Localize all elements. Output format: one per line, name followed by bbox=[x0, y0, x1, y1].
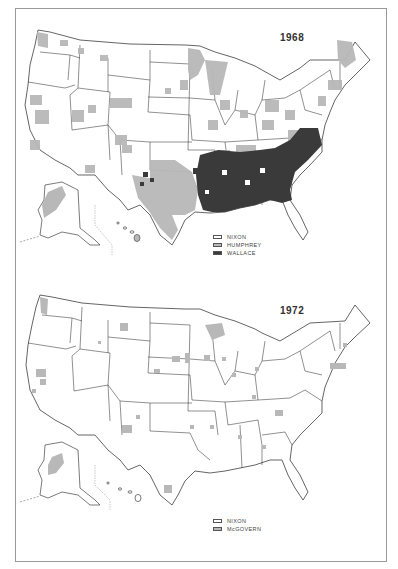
legend-label: HUMPHREY bbox=[227, 242, 262, 248]
year-label-1972: 1972 bbox=[280, 305, 304, 316]
legend-label: NIXON bbox=[227, 234, 246, 240]
legend-label: NIXON bbox=[227, 518, 246, 524]
legend-1972: NIXON McGOVERN bbox=[213, 517, 261, 533]
legend-item-nixon: NIXON bbox=[213, 233, 262, 241]
nixon-swatch bbox=[213, 519, 222, 523]
mcgovern-swatch bbox=[213, 527, 222, 531]
wallace-swatch bbox=[213, 251, 222, 255]
legend-item-humphrey: HUMPHREY bbox=[213, 241, 262, 249]
us-map-1972 bbox=[0, 285, 398, 569]
legend-item-nixon: NIXON bbox=[213, 517, 261, 525]
legend-label: WALLACE bbox=[227, 250, 256, 256]
legend-1968: NIXON HUMPHREY WALLACE bbox=[213, 233, 262, 257]
us-map-1968 bbox=[0, 0, 398, 285]
map-1972: 1972 NIXON McGOVERN bbox=[0, 285, 398, 569]
legend-item-mcgovern: McGOVERN bbox=[213, 525, 261, 533]
humphrey-swatch bbox=[213, 243, 222, 247]
legend-item-wallace: WALLACE bbox=[213, 249, 262, 257]
map-1968: 1968 NIXON HUMPHREY WALLACE bbox=[0, 0, 398, 285]
nixon-swatch bbox=[213, 235, 222, 239]
year-label-1968: 1968 bbox=[280, 32, 304, 43]
legend-label: McGOVERN bbox=[227, 526, 261, 532]
